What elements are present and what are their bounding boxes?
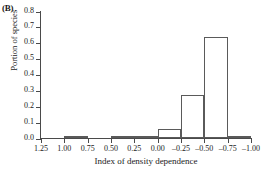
- x-axis-title: Index of density dependence: [40, 157, 252, 166]
- x-axis-line: [40, 138, 252, 139]
- y-tick-label: 0.4: [24, 70, 34, 78]
- x-tick-label: –0.50: [195, 145, 213, 153]
- y-tick-label: 0.6: [24, 38, 34, 46]
- bar: [204, 37, 227, 138]
- y-tick-label: 0.5: [24, 54, 34, 62]
- x-tick: [64, 139, 65, 143]
- x-tick: [251, 139, 252, 143]
- x-tick: [204, 139, 205, 143]
- y-tick: 0.1: [36, 123, 40, 124]
- y-axis-line: [40, 11, 41, 140]
- bar: [134, 136, 157, 138]
- y-tick: 0.0: [36, 139, 40, 140]
- x-tick: [111, 139, 112, 143]
- bar: [181, 95, 204, 138]
- y-tick-label: 0.3: [24, 86, 34, 94]
- x-tick-label: 1.25: [34, 145, 48, 153]
- x-tick-label: 0.25: [127, 145, 141, 153]
- x-tick: [134, 139, 135, 143]
- y-tick: 0.6: [36, 43, 40, 44]
- x-tick-label: –0.75: [219, 145, 237, 153]
- x-tick-label: 0.00: [151, 145, 165, 153]
- x-tick: [158, 139, 159, 143]
- y-axis-title: Portion of species: [10, 0, 19, 92]
- bar: [64, 136, 87, 138]
- x-tick: [181, 139, 182, 143]
- y-tick: 0.5: [36, 59, 40, 60]
- y-tick: 0.8: [36, 12, 40, 13]
- x-tick-label: 0.50: [104, 145, 118, 153]
- plot-area: 0.00.10.20.30.40.50.60.70.8 1.251.000.75…: [40, 11, 252, 139]
- y-tick-label: 0.7: [24, 22, 34, 30]
- bar: [158, 129, 181, 138]
- y-tick: 0.2: [36, 107, 40, 108]
- y-tick: 0.7: [36, 27, 40, 28]
- y-tick-label: 0.2: [24, 102, 34, 110]
- x-tick-label: –1.00: [242, 145, 260, 153]
- y-tick: 0.3: [36, 91, 40, 92]
- x-tick-label: 1.00: [57, 145, 71, 153]
- x-tick: [228, 139, 229, 143]
- y-tick-label: 0.0: [24, 134, 34, 142]
- figure-panel-b: (B) Portion of species 0.00.10.20.30.40.…: [0, 0, 262, 171]
- y-tick: 0.4: [36, 75, 40, 76]
- bar: [111, 136, 134, 138]
- y-tick-label: 0.1: [24, 118, 34, 126]
- x-tick: [41, 139, 42, 143]
- y-tick-label: 0.8: [24, 7, 34, 15]
- x-tick: [88, 139, 89, 143]
- bar: [228, 136, 251, 138]
- x-tick-label: 0.75: [81, 145, 95, 153]
- x-tick-label: –0.25: [172, 145, 190, 153]
